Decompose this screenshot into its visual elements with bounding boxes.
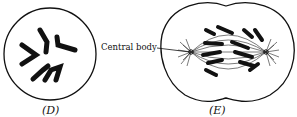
panel-d xyxy=(4,8,96,100)
chromosomes-e xyxy=(203,27,262,75)
caption-e: (E) xyxy=(209,104,226,117)
caption-d: (D) xyxy=(42,104,59,117)
panel-e xyxy=(157,3,294,102)
spindle-fibers xyxy=(191,35,266,69)
mitosis-figure xyxy=(0,0,297,117)
chromosomes-d xyxy=(22,30,75,80)
cell-d-outline xyxy=(4,8,96,100)
central-body-leader-line xyxy=(157,48,190,52)
central-body-label: Central body xyxy=(101,42,157,52)
